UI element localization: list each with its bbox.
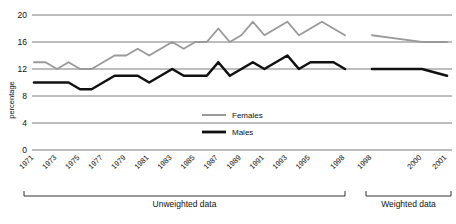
x-tick-label: 1998 <box>355 153 373 171</box>
x-tick-label: 1998 <box>328 153 346 171</box>
unweighted-data-label: Unweighted data <box>153 199 217 209</box>
y-axis-ticks: 048121620 <box>18 10 28 155</box>
y-tick-label: 16 <box>18 37 28 47</box>
y-tick-label: 20 <box>18 10 28 20</box>
chart-container: 048121620 percentage 1971197319751977197… <box>0 0 456 224</box>
x-axis-ticks: 1971197319751977197919811983198519871989… <box>17 153 448 171</box>
x-tick-label: 1987 <box>202 153 220 171</box>
y-tick-label: 8 <box>22 91 27 101</box>
x-tick-label: 1979 <box>109 153 127 171</box>
group-brackets: Unweighted dataWeighted data <box>24 191 451 209</box>
x-tick-label: 1995 <box>294 153 312 171</box>
y-tick-label: 12 <box>18 64 28 74</box>
x-tick-label: 1975 <box>63 153 81 171</box>
series-line-males-unweighted <box>34 56 345 90</box>
x-tick-label: 1989 <box>225 153 243 171</box>
x-tick-label: 2000 <box>405 153 423 171</box>
y-tick-label: 4 <box>22 118 27 128</box>
y-tick-label: 0 <box>22 145 27 155</box>
x-tick-label: 1971 <box>17 153 35 171</box>
series-line-females-weighted <box>372 35 447 42</box>
x-tick-label: 1973 <box>40 153 58 171</box>
legend-label-males: Males <box>232 128 253 137</box>
x-tick-label: 1981 <box>132 153 150 171</box>
line-chart: 048121620 percentage 1971197319751977197… <box>0 0 456 224</box>
unweighted-data-bracket <box>24 191 345 196</box>
weighted-data-label: Weighted data <box>381 199 436 209</box>
x-tick-label: 2001 <box>430 153 448 171</box>
x-tick-label: 1977 <box>86 153 104 171</box>
x-tick-label: 1985 <box>179 153 197 171</box>
y-axis-title: percentage <box>7 81 16 119</box>
series-line-males-weighted <box>372 69 447 76</box>
x-tick-label: 1991 <box>248 153 266 171</box>
legend-label-females: Females <box>232 111 263 120</box>
chart-legend: FemalesMales <box>202 111 263 137</box>
series-lines <box>34 22 447 90</box>
series-line-females-unweighted <box>34 22 345 69</box>
x-tick-label: 1993 <box>271 153 289 171</box>
x-tick-label: 1983 <box>155 153 173 171</box>
weighted-data-bracket <box>366 191 451 196</box>
